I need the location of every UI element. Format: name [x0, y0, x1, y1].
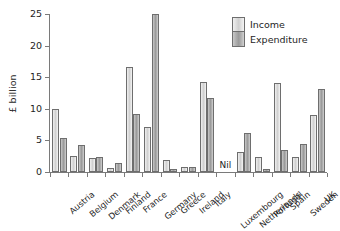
- x-axis-tick: [105, 173, 106, 177]
- bar-spain-income: [274, 83, 281, 172]
- bar-austria-income: [52, 109, 59, 172]
- legend-swatch-income-icon: [232, 17, 245, 32]
- x-axis-tick: [87, 173, 88, 177]
- bar-sweden-income: [292, 157, 299, 172]
- x-axis-tick: [235, 173, 236, 177]
- y-axis-tick-label: 5: [36, 134, 42, 145]
- x-axis-tick: [272, 173, 273, 177]
- x-axis-tick: [142, 173, 143, 177]
- legend-label-expenditure: Expenditure: [250, 33, 307, 46]
- y-axis-tick-label: 20: [30, 40, 42, 51]
- x-axis-tick: [50, 173, 51, 177]
- y-axis-tick-label: 10: [30, 103, 42, 114]
- x-axis-tick: [327, 173, 328, 177]
- bar-spain-expenditure: [281, 150, 288, 172]
- x-axis-tick: [179, 173, 180, 177]
- bar-greece-income: [163, 160, 170, 172]
- chart-legend: Income Expenditure: [232, 17, 332, 47]
- x-axis-tick: [253, 173, 254, 177]
- legend-label-income: Income: [250, 18, 285, 31]
- bar-greece-expenditure: [170, 169, 177, 172]
- x-axis-tick: [124, 173, 125, 177]
- bar-portugal-income: [255, 157, 262, 172]
- x-axis-tick: [309, 173, 310, 177]
- bar-ireland-income: [181, 167, 188, 172]
- bar-portugal-expenditure: [263, 169, 270, 172]
- bar-finland-income: [107, 168, 114, 172]
- bar-denmark-income: [89, 158, 96, 172]
- bar-germany-income: [144, 127, 151, 173]
- legend-swatch-expenditure-icon: [232, 32, 245, 47]
- bar-italy-income: [200, 82, 207, 172]
- bar-belgium-expenditure: [78, 145, 85, 172]
- bar-germany-expenditure: [152, 14, 159, 172]
- nil-annotation-luxembourg: Nil: [214, 160, 237, 170]
- bar-netherlands-expenditure: [244, 133, 251, 172]
- bar-france-expenditure: [133, 114, 140, 172]
- bar-sweden-expenditure: [300, 144, 307, 172]
- x-axis-tick: [68, 173, 69, 177]
- y-axis-tick-label: 0: [36, 166, 42, 177]
- y-axis-title: £ billion: [7, 64, 18, 124]
- bar-austria-expenditure: [60, 138, 67, 172]
- legend-item-expenditure: Expenditure: [232, 32, 332, 47]
- legend-item-income: Income: [232, 17, 332, 32]
- bar-ireland-expenditure: [189, 167, 196, 172]
- x-axis-tick: [198, 173, 199, 177]
- y-axis-tick-label: 25: [30, 8, 42, 19]
- y-axis-tick-label: 15: [30, 71, 42, 82]
- bar-uk-expenditure: [318, 89, 325, 172]
- bar-denmark-expenditure: [96, 157, 103, 172]
- bar-netherlands-income: [237, 152, 244, 172]
- bar-france-income: [126, 67, 133, 172]
- x-axis-tick: [290, 173, 291, 177]
- bar-finland-expenditure: [115, 163, 122, 172]
- x-axis-tick: [161, 173, 162, 177]
- bar-belgium-income: [70, 156, 77, 172]
- bar-uk-income: [310, 115, 317, 172]
- x-axis-tick: [216, 173, 217, 177]
